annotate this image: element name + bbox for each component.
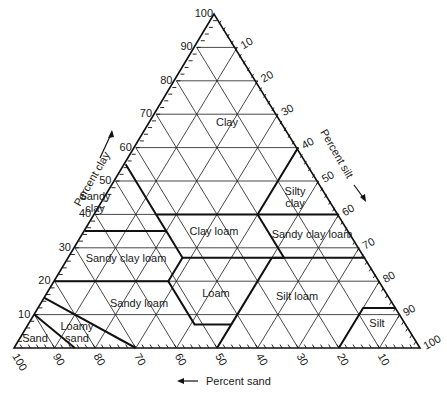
region-label-clay-loam: Clay loam xyxy=(190,225,239,237)
region-label-silty-clay: Siltyclay xyxy=(285,185,306,209)
sand-axis-title-text: Percent sand xyxy=(206,375,271,387)
region-label-silt: Silt xyxy=(369,317,384,329)
sand-tick-label: 80 xyxy=(91,351,108,368)
soil-texture-triangle: 1020304050607080901001020304050607080901… xyxy=(0,0,447,393)
clay-tick-label: 100 xyxy=(195,7,213,19)
region-label-loamy-sand: Loamysand xyxy=(60,320,94,344)
sand-tick-label: 100 xyxy=(10,351,30,373)
clay-tick-label: 20 xyxy=(38,274,50,286)
silt-tick-label: 40 xyxy=(299,135,316,152)
clay-tick-label: 50 xyxy=(99,174,111,186)
class-boundary xyxy=(85,214,166,231)
region-label-clay: Clay xyxy=(216,116,239,128)
clay-tick-label: 30 xyxy=(59,241,71,253)
triangle-canvas: 1020304050607080901001020304050607080901… xyxy=(0,0,447,393)
sand-tick-label: 70 xyxy=(132,351,149,368)
sand-tick-label: 20 xyxy=(335,351,352,368)
silt-tick-label: 80 xyxy=(380,268,397,285)
silt-tick-label: 30 xyxy=(279,101,296,118)
sand-tick-label: 40 xyxy=(254,351,271,368)
region-label-sand: Sand xyxy=(22,332,48,344)
sand-tick-label: 60 xyxy=(173,351,190,368)
region-label-sandy-clay-loam-right: Sandy clay loam xyxy=(272,228,353,240)
clay-tick-label: 10 xyxy=(18,308,30,320)
clay-tick-label: 60 xyxy=(120,141,132,153)
silt-tick-label: 90 xyxy=(401,302,418,319)
clay-tick-label: 70 xyxy=(140,107,152,119)
silt-tick-label: 100 xyxy=(421,332,443,352)
clay-tick-label: 80 xyxy=(160,74,172,86)
sand-axis-arrow-icon xyxy=(177,378,198,384)
sand-tick-label: 50 xyxy=(213,351,230,368)
silt-tick-label: 10 xyxy=(238,35,255,52)
silt-axis-arrow-icon xyxy=(354,185,366,202)
silt-tick-label: 70 xyxy=(360,235,377,252)
sand-tick-label: 30 xyxy=(294,351,311,368)
sand-tick-label: 10 xyxy=(376,351,393,368)
region-label-loam: Loam xyxy=(202,287,230,299)
region-label-silt-loam: Silt loam xyxy=(276,290,318,302)
region-label-sandy-loam: Sandy loam xyxy=(110,297,168,309)
silt-tick-label: 60 xyxy=(340,202,357,219)
sand-tick-label: 90 xyxy=(51,351,68,368)
sand-gridline xyxy=(116,181,218,348)
silt-tick-label: 50 xyxy=(320,168,337,185)
silt-tick-label: 20 xyxy=(259,68,276,85)
clay-tick-label: 90 xyxy=(180,40,192,52)
region-label-sandy-clay-loam: Sandy clay loam xyxy=(86,252,167,264)
